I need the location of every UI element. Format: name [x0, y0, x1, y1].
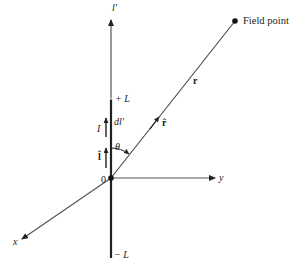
- y-axis-label: y: [218, 172, 224, 183]
- l-hat-label: l̂: [97, 150, 101, 162]
- current-label: I: [96, 123, 101, 134]
- origin-label: 0: [101, 174, 106, 185]
- r-hat-arrow: [150, 117, 159, 129]
- theta-label: θ: [115, 141, 120, 152]
- biot-savart-diagram: l' + L I dl' l̂ θ 0 y x − L r r̂ Field p…: [0, 0, 301, 270]
- field-point-label: Field point: [243, 15, 289, 26]
- minus-L-label: − L: [114, 249, 129, 260]
- l-prime-axis-label: l': [112, 2, 118, 13]
- r-vector-label: r: [193, 75, 198, 86]
- dl-prime-label: dl': [114, 116, 125, 127]
- theta-arc: [111, 148, 129, 154]
- plus-L-label: + L: [115, 93, 130, 104]
- x-axis: [22, 178, 111, 239]
- field-point-dot: [232, 18, 238, 24]
- x-axis-label: x: [12, 236, 18, 247]
- origin-dot: [108, 175, 114, 181]
- r-hat-label: r̂: [162, 117, 167, 128]
